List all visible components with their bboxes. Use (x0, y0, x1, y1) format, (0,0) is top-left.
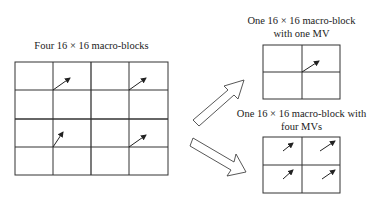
four-motion-vectors (283, 141, 335, 179)
diagram-canvas (0, 0, 375, 206)
hollow-arrow-up (193, 80, 244, 126)
one-mv-macroblock (263, 45, 340, 99)
hollow-arrow-down (190, 138, 246, 176)
single-motion-vector (302, 61, 319, 72)
left-motion-vectors (53, 78, 146, 147)
